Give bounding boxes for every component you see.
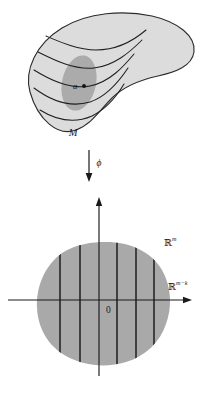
- map-arrow-group: ϕ: [86, 150, 102, 182]
- manifold-chart-diagram: a M ϕ: [0, 0, 215, 395]
- R-m-minus-k-axis-label-base: ℝ: [168, 282, 176, 292]
- image-blob: [37, 242, 170, 365]
- R-m-axis-label-base: ℝ: [164, 238, 172, 248]
- up-arrow-head-icon: [96, 197, 102, 206]
- phi-label: ϕ: [97, 158, 102, 168]
- bottom-panel-image: 0 ℝ m ℝ m−k: [8, 197, 192, 376]
- R-m-axis-label-sup: m: [172, 235, 177, 242]
- manifold-blob: [28, 13, 194, 132]
- R-m-axis-label: ℝ m: [164, 235, 177, 248]
- point-a-marker: [82, 84, 86, 88]
- R-m-minus-k-axis-label: ℝ m−k: [168, 279, 188, 292]
- origin-label: 0: [106, 305, 111, 315]
- R-m-minus-k-axis-label-sup: m−k: [176, 279, 188, 286]
- point-a-label: a: [73, 81, 77, 91]
- figure-root: a M ϕ: [0, 0, 215, 395]
- down-arrow-head-icon: [86, 173, 93, 182]
- top-panel-manifold: a M: [28, 13, 194, 138]
- manifold-label: M: [68, 127, 79, 138]
- right-arrow-head-icon: [183, 297, 192, 303]
